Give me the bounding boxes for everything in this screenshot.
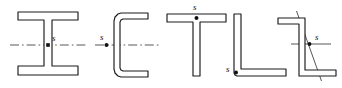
t-section-outline bbox=[167, 14, 226, 76]
t-section-shear-center-label: s bbox=[193, 2, 197, 12]
z-section-shear-center-label: s bbox=[315, 32, 319, 42]
l-angle-shear-center-dot bbox=[234, 71, 238, 75]
i-beam-shear-center-label: s bbox=[52, 33, 56, 43]
c-channel-shear-center-dot bbox=[105, 43, 109, 47]
shear-center-figure: s s s s s bbox=[0, 0, 342, 88]
z-section-outline bbox=[278, 18, 336, 76]
t-section-shear-center-dot bbox=[195, 16, 199, 20]
z-section-group: s bbox=[278, 11, 336, 81]
c-channel-shear-center-label: s bbox=[100, 32, 104, 42]
t-section-group: s bbox=[167, 2, 226, 76]
sections-canvas: s s s s s bbox=[0, 0, 342, 88]
l-angle-shear-center-label: s bbox=[226, 64, 230, 74]
z-section-shear-center-dot bbox=[308, 42, 312, 46]
l-angle-group: s bbox=[226, 14, 286, 76]
c-channel-group: s bbox=[95, 13, 160, 77]
i-beam-centroid-dot bbox=[46, 43, 50, 47]
i-beam-group: s bbox=[10, 12, 88, 75]
